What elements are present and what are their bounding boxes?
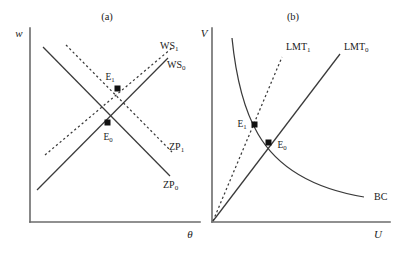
panel-b-label-lmt1: LMT1 bbox=[286, 41, 311, 54]
panel-b-y-axis-label: V bbox=[201, 27, 209, 39]
panel-b: (b) V U E1 E0 LMT1 LMT0 BC bbox=[201, 11, 390, 240]
panel-a: (a) w θ E1 E0 WS1 WS0 ZP1 ZP0 bbox=[15, 11, 200, 240]
panel-a-x-axis-label: θ bbox=[187, 228, 193, 240]
panel-a-marker-e1 bbox=[115, 86, 121, 92]
panel-a-label-ws0: WS0 bbox=[167, 59, 186, 72]
panel-b-label-lmt0: LMT0 bbox=[344, 41, 369, 54]
panel-a-marker-e0 bbox=[105, 120, 111, 126]
panel-b-curve-lmt1 bbox=[213, 57, 282, 221]
panel-b-label-e1: E1 bbox=[237, 119, 246, 130]
panel-b-curve-lmt0 bbox=[213, 54, 340, 221]
panel-a-label-e1: E1 bbox=[105, 72, 114, 83]
panel-a-label-zp0: ZP0 bbox=[163, 179, 179, 192]
panel-b-title: (b) bbox=[287, 11, 300, 23]
panel-b-label-e0: E0 bbox=[277, 140, 287, 151]
panel-b-x-axis-label: U bbox=[374, 228, 383, 240]
economics-figure: (a) w θ E1 E0 WS1 WS0 ZP1 ZP0 bbox=[0, 0, 414, 254]
panel-a-y-axis-label: w bbox=[15, 27, 23, 39]
panel-b-curve-bc bbox=[232, 38, 364, 197]
panel-b-marker-e1 bbox=[252, 122, 258, 128]
panel-a-label-zp1: ZP1 bbox=[169, 141, 185, 154]
panel-a-curve-zp0 bbox=[43, 47, 170, 176]
panel-a-label-ws1: WS1 bbox=[160, 40, 179, 53]
panel-a-title: (a) bbox=[101, 11, 113, 23]
panel-b-label-bc: BC bbox=[374, 191, 388, 202]
panel-b-marker-e0 bbox=[266, 140, 272, 146]
panel-a-label-e0: E0 bbox=[103, 132, 113, 143]
panel-a-curve-ws0 bbox=[37, 58, 168, 190]
figure-canvas: (a) w θ E1 E0 WS1 WS0 ZP1 ZP0 bbox=[0, 0, 414, 254]
